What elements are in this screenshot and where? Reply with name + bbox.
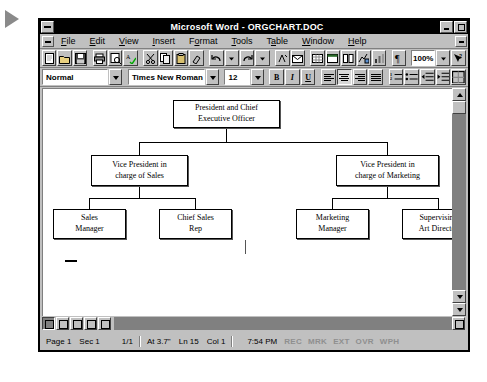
org-node-vp-sales[interactable]: Vice President in charge of Sales — [91, 155, 188, 186]
menu-window[interactable]: Window — [295, 36, 341, 46]
autoformat-icon[interactable] — [275, 50, 289, 66]
print-icon[interactable] — [93, 50, 107, 66]
org-node-marketing-manager[interactable]: Marketing Manager — [296, 209, 369, 239]
org-node-ceo[interactable]: President and Chief Executive Officer — [173, 100, 280, 128]
page-layout-view-button[interactable] — [56, 317, 69, 330]
redo-icon[interactable] — [240, 50, 254, 66]
align-right-button[interactable] — [353, 69, 368, 85]
menu-insert[interactable]: Insert — [145, 36, 182, 46]
cut-icon[interactable] — [143, 50, 157, 66]
paste-icon[interactable] — [174, 50, 188, 66]
scroll-up-button[interactable] — [452, 88, 466, 101]
font-name-box[interactable]: Times New Roman — [128, 69, 205, 85]
vertical-scroll-track[interactable] — [452, 101, 466, 290]
insert-table-icon[interactable] — [310, 50, 324, 66]
svg-text:¶: ¶ — [395, 53, 400, 64]
connector-sm-drop — [89, 198, 90, 209]
menu-format[interactable]: Format — [182, 36, 225, 46]
menu-file[interactable]: File — [54, 36, 83, 46]
normal-view-button[interactable] — [42, 317, 55, 330]
org-node-sales-manager[interactable]: Sales Manager — [53, 209, 126, 239]
window-controls — [440, 21, 467, 33]
org-node-line: President and Chief — [195, 103, 258, 114]
decrease-indent-button[interactable] — [420, 69, 435, 85]
align-center-button[interactable] — [337, 69, 352, 85]
org-node-line: Executive Officer — [198, 114, 255, 125]
save-icon[interactable] — [73, 50, 87, 66]
document-restore-button[interactable] — [455, 36, 467, 47]
vertical-scrollbar[interactable] — [452, 88, 466, 316]
font-dropdown-icon[interactable] — [206, 69, 219, 85]
horizontal-scroll-track[interactable] — [114, 317, 452, 330]
vertical-scroll-thumb[interactable] — [452, 101, 466, 114]
connector-vps-drop — [139, 142, 140, 155]
spelling-icon[interactable]: A — [123, 50, 137, 66]
redo-dropdown-icon[interactable] — [255, 50, 269, 66]
menu-help[interactable]: Help — [341, 36, 374, 46]
status-indicator-rec[interactable]: REC — [281, 337, 305, 346]
document-page[interactable]: President and Chief Executive Officer Vi… — [43, 89, 466, 316]
align-justify-button[interactable] — [368, 69, 383, 85]
insert-address-icon[interactable] — [291, 50, 305, 66]
scroll-right-button[interactable] — [452, 317, 465, 330]
outline-view-button[interactable] — [70, 317, 83, 330]
document-system-menu-icon[interactable] — [42, 36, 54, 47]
status-indicator-ovr[interactable]: OVR — [353, 337, 377, 346]
bulleted-list-button[interactable] — [404, 69, 419, 85]
menu-table[interactable]: Table — [259, 36, 295, 46]
show-paragraph-icon[interactable]: ¶ — [392, 50, 406, 66]
menu-edit[interactable]: Edit — [83, 36, 113, 46]
copy-icon[interactable] — [159, 50, 173, 66]
format-painter-icon[interactable] — [189, 50, 203, 66]
numbered-list-button[interactable]: 12 — [389, 69, 404, 85]
align-left-button[interactable] — [321, 69, 336, 85]
scroll-down-button[interactable] — [452, 303, 466, 316]
undo-dropdown-icon[interactable] — [225, 50, 239, 66]
document-canvas[interactable]: President and Chief Executive Officer Vi… — [42, 88, 466, 316]
print-preview-icon[interactable] — [108, 50, 122, 66]
menu-tools[interactable]: Tools — [224, 36, 259, 46]
increase-indent-button[interactable] — [436, 69, 451, 85]
underline-button[interactable]: U — [301, 69, 316, 85]
borders-button[interactable] — [451, 69, 466, 85]
columns-icon[interactable] — [341, 50, 355, 66]
previous-page-button[interactable] — [452, 290, 466, 303]
org-node-line: Rep — [189, 224, 202, 235]
org-node-vp-marketing[interactable]: Vice President in charge of Marketing — [336, 155, 439, 186]
style-box[interactable]: Normal — [42, 69, 108, 85]
italic-button[interactable]: I — [285, 69, 300, 85]
bold-button[interactable]: B — [269, 69, 284, 85]
open-icon[interactable] — [57, 50, 71, 66]
minimize-button[interactable] — [440, 21, 453, 33]
horizontal-scroll-row — [42, 316, 466, 331]
insert-excel-table-icon[interactable] — [326, 50, 340, 66]
font-size-dropdown-icon[interactable] — [251, 69, 264, 85]
style-dropdown-icon[interactable] — [109, 69, 122, 85]
status-at: At 3.7" — [143, 337, 175, 346]
status-indicator-mrk[interactable]: MRK — [305, 337, 330, 346]
standard-toolbar: A ¶ 100% ? — [40, 49, 468, 68]
connector-sad-drop — [438, 198, 439, 209]
play-triangle-marker — [5, 10, 19, 28]
drawing-icon[interactable] — [357, 50, 371, 66]
zoom-value[interactable]: 100% — [411, 50, 435, 66]
extra-view-button[interactable] — [84, 317, 97, 330]
extra-view-button-2[interactable] — [98, 317, 111, 330]
org-node-chief-sales-rep[interactable]: Chief Sales Rep — [159, 209, 232, 239]
status-page: Page 1 — [42, 337, 75, 346]
status-indicator-ext[interactable]: EXT — [330, 337, 352, 346]
status-divider — [231, 336, 233, 347]
connector-vps-stem — [139, 186, 140, 198]
help-pointer-icon[interactable]: ? — [451, 50, 465, 66]
zoom-dropdown-icon[interactable] — [436, 50, 450, 66]
font-size-box[interactable]: 12 — [224, 69, 249, 85]
system-menu-icon[interactable] — [41, 21, 54, 33]
text-cursor — [245, 240, 246, 254]
maximize-button[interactable] — [454, 21, 467, 33]
menu-view[interactable]: View — [112, 36, 145, 46]
document-window-controls — [455, 34, 467, 48]
new-icon[interactable] — [42, 50, 56, 66]
chart-icon[interactable] — [372, 50, 386, 66]
status-indicator-wph[interactable]: WPH — [377, 337, 403, 346]
undo-icon[interactable] — [209, 50, 223, 66]
